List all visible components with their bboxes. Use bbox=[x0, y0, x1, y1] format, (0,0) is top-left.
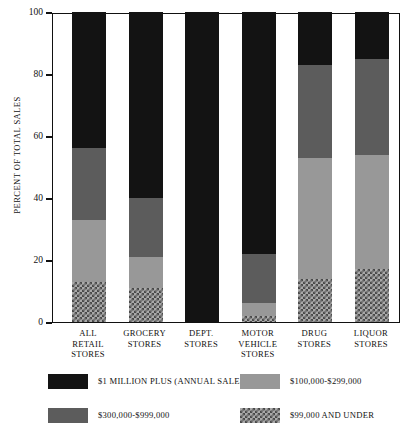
legend-swatch-check bbox=[240, 408, 280, 423]
bar-segment bbox=[129, 198, 163, 257]
x-axis-label-line: RETAIL bbox=[57, 339, 119, 350]
bar-all-retail-stores[interactable] bbox=[72, 12, 106, 322]
bar-segment bbox=[72, 220, 106, 282]
bar-segment bbox=[355, 269, 389, 322]
bar-liquor-stores[interactable] bbox=[355, 12, 389, 322]
y-axis-tick-label: 80 bbox=[34, 69, 44, 79]
y-axis-tick-label: 0 bbox=[38, 317, 43, 327]
x-axis-label-line: STORES bbox=[57, 349, 119, 360]
legend-label: $99,000 AND UNDER bbox=[290, 410, 374, 420]
y-axis-tick-label: 60 bbox=[34, 131, 44, 141]
bar-motor-vehicle-stores[interactable] bbox=[242, 12, 276, 322]
x-axis-label-line: GROCERY bbox=[114, 328, 176, 339]
plot-area bbox=[52, 13, 400, 323]
x-axis-label-line: STORES bbox=[340, 339, 402, 350]
bar-segment bbox=[298, 65, 332, 158]
bar-segment bbox=[129, 257, 163, 288]
bar-segment bbox=[185, 12, 219, 322]
bar-segment bbox=[242, 303, 276, 315]
x-axis-label-line: DEPT. bbox=[170, 328, 232, 339]
x-axis-label-grocery-stores: GROCERYSTORES bbox=[114, 328, 176, 349]
chart-legend: $1 MILLION PLUS (ANNUAL SALES)$100,000-$… bbox=[0, 374, 407, 424]
bar-drug-stores[interactable] bbox=[298, 12, 332, 322]
y-axis-tick-label: 20 bbox=[34, 255, 44, 265]
bar-segment bbox=[72, 148, 106, 219]
stacked-bar-chart: PERCENT OF TOTAL SALES 020406080100 ALLR… bbox=[0, 0, 407, 427]
x-axis-label-motor-vehicle-stores: MOTORVEHICLESTORES bbox=[227, 328, 289, 360]
bar-segment bbox=[129, 288, 163, 322]
x-axis-label-all-retail-stores: ALLRETAILSTORES bbox=[57, 328, 119, 360]
legend-swatch-black bbox=[48, 374, 88, 389]
bar-segment bbox=[242, 12, 276, 254]
y-axis-title: PERCENT OF TOTAL SALES bbox=[12, 55, 22, 255]
legend-label: $1 MILLION PLUS (ANNUAL SALES) bbox=[98, 376, 248, 386]
legend-swatch-dark bbox=[48, 408, 88, 423]
bar-grocery-stores[interactable] bbox=[129, 12, 163, 322]
legend-label: $100,000-$299,000 bbox=[290, 376, 362, 386]
x-axis-label-line: ALL bbox=[57, 328, 119, 339]
x-axis-label-line: STORES bbox=[114, 339, 176, 350]
bar-segment bbox=[242, 254, 276, 304]
bar-segment bbox=[355, 12, 389, 59]
bar-segment bbox=[72, 282, 106, 322]
y-axis-tick-label: 100 bbox=[29, 7, 43, 17]
x-axis-label-line: VEHICLE bbox=[227, 339, 289, 350]
bar-segment bbox=[298, 158, 332, 279]
x-axis-label-line: STORES bbox=[227, 349, 289, 360]
bar-segment bbox=[298, 279, 332, 322]
x-axis-label-line: DRUG bbox=[283, 328, 345, 339]
bar-segment bbox=[129, 12, 163, 198]
x-axis-label-liquor-stores: LIQUORSTORES bbox=[340, 328, 402, 349]
bar-segment bbox=[355, 155, 389, 270]
legend-label: $300,000-$999,000 bbox=[98, 410, 170, 420]
x-axis-label-line: LIQUOR bbox=[340, 328, 402, 339]
bar-dept-stores[interactable] bbox=[185, 12, 219, 322]
x-axis-label-line: MOTOR bbox=[227, 328, 289, 339]
bar-segment bbox=[298, 12, 332, 65]
bar-segment bbox=[242, 316, 276, 322]
x-axis-label-line: STORES bbox=[283, 339, 345, 350]
x-axis-label-line: STORES bbox=[170, 339, 232, 350]
y-axis-tick-label: 40 bbox=[34, 193, 44, 203]
bar-segment bbox=[355, 59, 389, 155]
legend-swatch-medium bbox=[240, 374, 280, 389]
x-axis-label-drug-stores: DRUGSTORES bbox=[283, 328, 345, 349]
x-axis-label-dept-stores: DEPT.STORES bbox=[170, 328, 232, 349]
bar-segment bbox=[72, 12, 106, 148]
